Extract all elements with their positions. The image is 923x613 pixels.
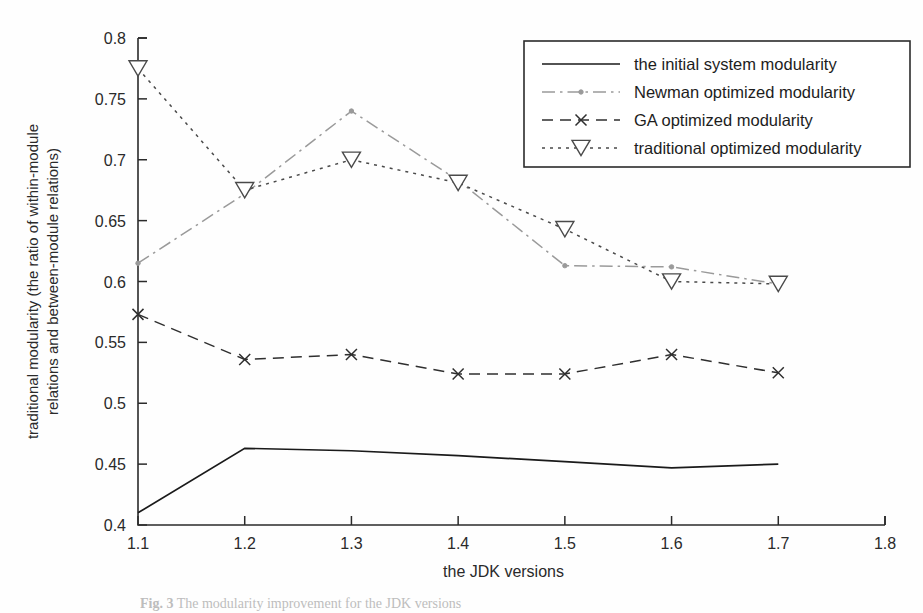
axis-labels: the JDK versionstraditional modularity (…: [24, 124, 564, 580]
modularity-line-chart: 0.40.450.50.550.60.650.70.750.8 1.11.21.…: [0, 0, 923, 613]
x-tick-label: 1.4: [447, 535, 469, 552]
legend: the initial system modularityNewman opti…: [524, 41, 910, 167]
legend-label: traditional optimized modularity: [634, 139, 862, 157]
y-tick-label: 0.8: [104, 30, 126, 47]
series-line: [138, 448, 778, 513]
y-tick-label: 0.7: [104, 152, 126, 169]
y-tick-label: 0.6: [104, 274, 126, 291]
caption-body: The modularity improvement for the JDK v…: [177, 596, 462, 611]
y-axis-title-line-1: traditional modularity (the ratio of wit…: [24, 124, 41, 439]
x-tick-label: 1.5: [554, 535, 576, 552]
y-tick-label: 0.4: [104, 517, 126, 534]
series-markers: [133, 309, 784, 380]
x-tick-label: 1.2: [234, 535, 256, 552]
x-tick-label: 1.8: [874, 535, 896, 552]
series-3: [133, 309, 784, 380]
figure-panel: 0.40.450.50.550.60.650.70.750.8 1.11.21.…: [0, 0, 923, 613]
y-axis-title-line-2: relations and between-module relations): [44, 148, 61, 415]
x-axis-ticks: 1.11.21.31.41.51.61.71.8: [127, 516, 896, 552]
series-1: [138, 448, 778, 513]
legend-label: Newman optimized modularity: [634, 83, 856, 101]
x-tick-label: 1.6: [660, 535, 682, 552]
y-tick-label: 0.45: [95, 456, 126, 473]
legend-label: the initial system modularity: [634, 55, 837, 73]
x-axis-title: the JDK versions: [443, 563, 564, 580]
y-tick-label: 0.75: [95, 91, 126, 108]
legend-label: GA optimized modularity: [634, 111, 814, 129]
series-line: [138, 314, 778, 374]
y-tick-label: 0.65: [95, 213, 126, 230]
y-tick-label: 0.55: [95, 334, 126, 351]
x-tick-label: 1.7: [767, 535, 789, 552]
y-axis-ticks: 0.40.450.50.550.60.650.70.750.8: [95, 30, 147, 534]
x-tick-label: 1.3: [340, 535, 362, 552]
figure-caption: Fig. 3 The modularity improvement for th…: [140, 596, 461, 612]
y-tick-label: 0.5: [104, 395, 126, 412]
x-tick-label: 1.1: [127, 535, 149, 552]
caption-number: Fig. 3: [140, 596, 173, 611]
